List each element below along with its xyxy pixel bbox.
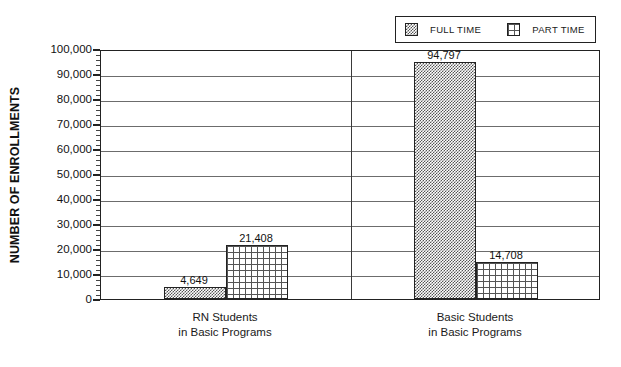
- y-axis-tick-label: 50,000: [26, 168, 92, 180]
- y-axis-minor-tick: [96, 185, 100, 186]
- y-axis-tick: [93, 274, 100, 275]
- y-axis-tick: [93, 149, 100, 150]
- y-axis-title-text: NUMBER OF ENROLLMENTS: [8, 87, 22, 263]
- legend-entry-part-time: PART TIME: [507, 23, 585, 36]
- y-axis-tick: [93, 249, 100, 250]
- category-label-line: in Basic Programs: [385, 325, 565, 340]
- y-axis-minor-tick: [96, 295, 100, 296]
- bar-value-label: 14,708: [461, 249, 551, 261]
- y-axis-tick-label: 60,000: [26, 143, 92, 155]
- y-axis-minor-tick: [96, 230, 100, 231]
- y-axis-minor-tick: [96, 220, 100, 221]
- bar-value-label: 21,408: [211, 232, 301, 244]
- y-axis-tick-label: 70,000: [26, 118, 92, 130]
- y-axis-tick: [93, 299, 100, 300]
- y-axis-minor-tick: [96, 210, 100, 211]
- y-axis-tick-label: 80,000: [26, 93, 92, 105]
- gridline: [101, 126, 599, 127]
- y-axis-minor-tick: [96, 290, 100, 291]
- y-axis-tick-label: 90,000: [26, 68, 92, 80]
- legend-label-part-time: PART TIME: [532, 24, 585, 35]
- bar: [414, 62, 476, 299]
- y-axis-tick-label: 40,000: [26, 193, 92, 205]
- y-axis-minor-tick: [96, 140, 100, 141]
- y-axis-minor-tick: [96, 80, 100, 81]
- bar: [476, 262, 538, 299]
- y-axis-minor-tick: [96, 110, 100, 111]
- y-axis-minor-tick: [96, 170, 100, 171]
- full-time-swatch-icon: [405, 23, 418, 36]
- bar: [226, 245, 288, 299]
- y-axis-tick-label: 100,000: [26, 43, 92, 55]
- y-axis-minor-tick: [96, 145, 100, 146]
- bar-value-label: 94,797: [399, 49, 489, 61]
- y-axis-minor-tick: [96, 135, 100, 136]
- y-axis-minor-tick: [96, 255, 100, 256]
- y-axis-minor-tick: [96, 160, 100, 161]
- gridline: [101, 151, 599, 152]
- y-axis-minor-tick: [96, 70, 100, 71]
- y-axis-minor-tick: [96, 245, 100, 246]
- y-axis-tick: [93, 224, 100, 225]
- plot-area: [100, 50, 600, 300]
- y-axis-minor-tick: [96, 270, 100, 271]
- x-axis-category-label: RN Studentsin Basic Programs: [135, 310, 315, 340]
- y-axis-tick: [93, 174, 100, 175]
- x-axis-category-label: Basic Studentsin Basic Programs: [385, 310, 565, 340]
- category-label-line: RN Students: [135, 310, 315, 325]
- bar-value-label: 4,649: [149, 274, 239, 286]
- y-axis-minor-tick: [96, 190, 100, 191]
- category-label-line: Basic Students: [385, 310, 565, 325]
- gridline: [101, 226, 599, 227]
- group-divider: [351, 51, 352, 299]
- bar: [164, 287, 226, 299]
- legend-entry-full-time: FULL TIME: [405, 23, 481, 36]
- y-axis-tick: [93, 199, 100, 200]
- y-axis-minor-tick: [96, 285, 100, 286]
- y-axis-minor-tick: [96, 65, 100, 66]
- y-axis-minor-tick: [96, 165, 100, 166]
- y-axis-minor-tick: [96, 95, 100, 96]
- y-axis-tick-label: 0: [26, 293, 92, 305]
- y-axis-minor-tick: [96, 90, 100, 91]
- y-axis-minor-tick: [96, 55, 100, 56]
- y-axis-tick-label: 20,000: [26, 243, 92, 255]
- chart-legend: FULL TIME PART TIME: [395, 16, 596, 43]
- y-axis-minor-tick: [96, 130, 100, 131]
- y-axis-tick-label: 10,000: [26, 268, 92, 280]
- y-axis-minor-tick: [96, 205, 100, 206]
- y-axis-minor-tick: [96, 260, 100, 261]
- gridline: [101, 76, 599, 77]
- y-axis-tick: [93, 49, 100, 50]
- y-axis-minor-tick: [96, 235, 100, 236]
- y-axis-minor-tick: [96, 155, 100, 156]
- y-axis-minor-tick: [96, 105, 100, 106]
- y-axis-minor-tick: [96, 195, 100, 196]
- y-axis-minor-tick: [96, 280, 100, 281]
- y-axis-minor-tick: [96, 265, 100, 266]
- y-axis-minor-tick: [96, 60, 100, 61]
- category-label-line: in Basic Programs: [135, 325, 315, 340]
- y-axis-tick: [93, 99, 100, 100]
- part-time-swatch-icon: [507, 23, 520, 36]
- y-axis-minor-tick: [96, 240, 100, 241]
- chart-figure: FULL TIME PART TIME NUMBER OF ENROLLMENT…: [0, 0, 621, 367]
- y-axis-minor-tick: [96, 115, 100, 116]
- gridline: [101, 201, 599, 202]
- y-axis-minor-tick: [96, 215, 100, 216]
- y-axis-tick: [93, 74, 100, 75]
- caption-fragment: [172, 357, 402, 367]
- y-axis-minor-tick: [96, 85, 100, 86]
- y-axis-labels: 010,00020,00030,00040,00050,00060,00070,…: [22, 0, 92, 367]
- gridline: [101, 101, 599, 102]
- legend-label-full-time: FULL TIME: [430, 24, 481, 35]
- y-axis-minor-tick: [96, 120, 100, 121]
- y-axis-minor-tick: [96, 180, 100, 181]
- y-axis-tick: [93, 124, 100, 125]
- y-axis-tick-label: 30,000: [26, 218, 92, 230]
- gridline: [101, 176, 599, 177]
